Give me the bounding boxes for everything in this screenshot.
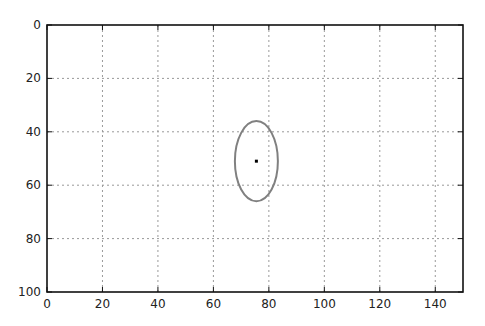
y-tick-label: 80 bbox=[26, 232, 41, 246]
x-axis-tick-labels: 020406080100120140 bbox=[43, 297, 447, 311]
x-tick-label: 80 bbox=[261, 297, 276, 311]
chart: 020406080100120140 020406080100 bbox=[0, 0, 485, 326]
y-tick-label: 60 bbox=[26, 178, 41, 192]
y-tick-label: 40 bbox=[26, 125, 41, 139]
y-tick-label: 100 bbox=[18, 285, 41, 299]
grid-lines bbox=[47, 25, 463, 292]
x-tick-label: 60 bbox=[206, 297, 221, 311]
y-axis-tick-labels: 020406080100 bbox=[18, 18, 41, 299]
axis-ticks bbox=[47, 25, 463, 292]
plot-frame bbox=[47, 25, 463, 292]
x-tick-label: 120 bbox=[368, 297, 391, 311]
x-tick-label: 20 bbox=[95, 297, 110, 311]
x-tick-label: 140 bbox=[424, 297, 447, 311]
x-tick-label: 100 bbox=[313, 297, 336, 311]
data-point bbox=[255, 160, 258, 163]
x-tick-label: 40 bbox=[150, 297, 165, 311]
y-tick-label: 0 bbox=[33, 18, 41, 32]
data-points bbox=[255, 160, 258, 163]
x-tick-label: 0 bbox=[43, 297, 51, 311]
y-tick-label: 20 bbox=[26, 71, 41, 85]
